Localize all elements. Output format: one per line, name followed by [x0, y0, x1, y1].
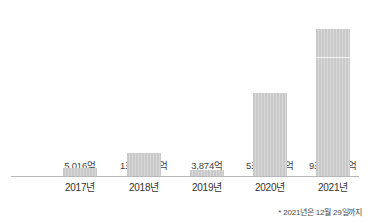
x-tick-label-2019: 2019년 — [177, 182, 237, 194]
bar-seam — [316, 57, 350, 58]
x-tick-label-2017: 2017년 — [50, 182, 110, 194]
plot-area: 5,016억 1조 5,347억 3,874억 5조 5,318억 9조 7,9… — [0, 0, 370, 180]
x-tick-label-2018: 2018년 — [114, 182, 174, 194]
x-tick-label-2021: 2021년 — [303, 182, 363, 194]
chart-footnote: * 2021년은 12월 29일까지 — [278, 208, 362, 218]
x-tick-label-2020: 2020년 — [240, 182, 300, 194]
bar-2018 — [127, 153, 161, 176]
bar-2020 — [253, 93, 287, 176]
bar-chart: 5,016억 1조 5,347억 3,874억 5조 5,318억 9조 7,9… — [0, 0, 370, 222]
bar-2021 — [316, 29, 350, 176]
bar-2019 — [190, 170, 224, 176]
bar-2017 — [63, 168, 97, 176]
x-axis-line — [11, 176, 359, 177]
